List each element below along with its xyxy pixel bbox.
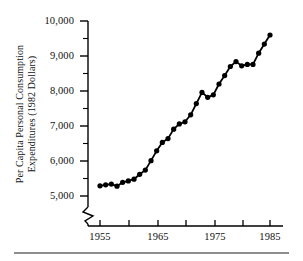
chart-figure: Per Capita Personal Consumption Expendit… [0,0,303,261]
data-point [245,62,250,67]
data-point [239,63,244,68]
data-point [228,64,233,69]
y-axis-break-icon [83,207,93,224]
data-point [233,59,238,64]
data-point [148,158,153,163]
data-point [143,168,148,173]
data-point [131,177,136,182]
data-point [160,140,165,145]
data-point [177,121,182,126]
data-point [137,172,142,177]
data-point [165,136,170,141]
plot-area [0,0,303,261]
data-point [103,182,108,187]
data-point-markers [97,32,272,188]
data-point [182,119,187,124]
y-axis [80,21,93,226]
x-axis [88,220,283,226]
data-point [211,92,216,97]
data-point [154,148,159,153]
data-point [114,184,119,189]
x-axis-ticks [100,220,270,226]
y-axis-minor-ticks [83,39,88,179]
data-point [267,32,272,37]
data-point [250,62,255,67]
data-point [194,101,199,106]
footer-divider [14,252,289,254]
data-point [216,81,221,86]
data-point [205,95,210,100]
data-point [262,42,267,47]
data-point [109,182,114,187]
data-point [199,90,204,95]
data-point [188,112,193,117]
data-point [256,51,261,56]
data-point [126,178,131,183]
data-point [222,73,227,78]
data-point [97,183,102,188]
data-point [120,180,125,185]
data-series-line [97,32,272,188]
data-point [171,127,176,132]
